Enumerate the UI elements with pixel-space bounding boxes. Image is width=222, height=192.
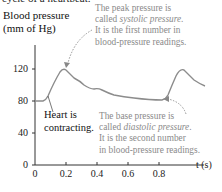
heart-label-line1: Heart is bbox=[44, 109, 94, 122]
systolic-term: systolic pressure bbox=[120, 14, 182, 24]
y-tick-label-40: 40 bbox=[6, 127, 28, 138]
x-tick-label-0-8: 0.8 bbox=[147, 168, 171, 179]
systolic-line2-pre: called bbox=[95, 14, 120, 24]
x-tick-label-0-4: 0.4 bbox=[85, 168, 109, 179]
x-tick-label-0-2: 0.2 bbox=[54, 168, 78, 179]
diastolic-line2: called diastolic pressure. bbox=[99, 122, 200, 133]
systolic-line2-post: . bbox=[181, 14, 183, 24]
x-axis-label: t (s) bbox=[196, 159, 212, 170]
heart-label-line2: contracting. bbox=[44, 122, 94, 135]
systolic-arrowhead bbox=[64, 62, 70, 68]
systolic-line3: It is the first number in bbox=[95, 25, 186, 36]
systolic-line4: blood-pressure readings. bbox=[95, 37, 186, 48]
diastolic-line3: It is the second number bbox=[99, 133, 200, 144]
diastolic-line2-post: . bbox=[189, 122, 191, 132]
y-tick-label-120: 120 bbox=[6, 63, 28, 74]
diastolic-line4: in blood-pressure readings. bbox=[99, 145, 200, 156]
y-tick-label-80: 80 bbox=[6, 95, 28, 106]
systolic-annotation: The peak pressure is called systolic pre… bbox=[95, 3, 186, 48]
diastolic-term: diastolic pressure bbox=[124, 122, 190, 132]
x-tick-label-0: 0 bbox=[23, 168, 47, 179]
heart-contracting-label: Heart is contracting. bbox=[44, 109, 94, 134]
diastolic-line2-pre: called bbox=[99, 122, 124, 132]
systolic-arrow bbox=[68, 30, 92, 63]
diastolic-annotation: The base pressure is called diastolic pr… bbox=[99, 111, 200, 156]
systolic-line2: called systolic pressure. bbox=[95, 14, 186, 25]
systolic-line1: The peak pressure is bbox=[95, 3, 186, 14]
x-tick-label-0-6: 0.6 bbox=[116, 168, 140, 179]
pressure-curve bbox=[35, 69, 205, 101]
diastolic-line1: The base pressure is bbox=[99, 111, 200, 122]
